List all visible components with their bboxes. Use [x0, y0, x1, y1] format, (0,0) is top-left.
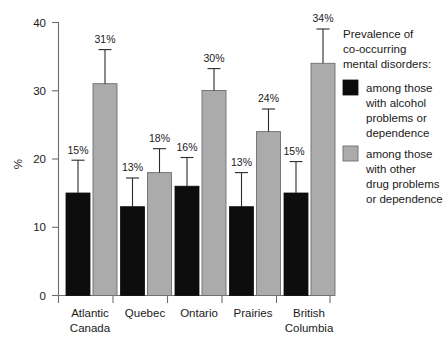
error-bar-light-prairies [262, 109, 275, 132]
value-label-light-british-columbia: 34% [312, 12, 333, 24]
bar-light-atlantic-canada [93, 84, 117, 296]
chart-legend: Prevalence of co-occurring mental disord… [343, 28, 443, 205]
cat-label-atlantic-canada-line1: Atlantic [71, 307, 109, 319]
legend-title-line2: co-occurring [343, 43, 406, 55]
legend-label-alcohol-line3: problems or [366, 112, 427, 124]
y-tick-label-0: 0 [40, 290, 46, 302]
bar-chart: 40 30 20 10 0 % 15% [0, 0, 444, 343]
cat-label-british-columbia-line2: Columbia [285, 322, 334, 334]
y-axis-ticks [52, 23, 59, 296]
legend-title-line3: mental disorders: [343, 58, 431, 70]
x-axis-group-ticks [59, 296, 331, 304]
cat-label-prairies: Prairies [234, 307, 273, 319]
legend-label-alcohol-line4: dependence [366, 127, 429, 139]
cat-label-british-columbia-line1: British [293, 307, 325, 319]
y-axis-title: % [12, 159, 24, 169]
value-label-light-atlantic-canada: 31% [94, 33, 115, 45]
legend-swatch-other-drug [343, 146, 358, 161]
legend-label-other-drug-line1: among those [366, 148, 433, 160]
value-label-dark-ontario: 16% [176, 141, 197, 153]
error-bar-dark-british-columbia [290, 162, 303, 193]
value-label-dark-prairies: 13% [231, 156, 252, 168]
legend-swatch-alcohol [343, 80, 358, 95]
bar-light-prairies [257, 132, 281, 296]
legend-label-alcohol-line1: among those [366, 82, 433, 94]
bar-dark-british-columbia [284, 193, 308, 296]
bar-group-prairies: 13% 24% [230, 92, 281, 295]
bar-light-quebec [148, 173, 172, 296]
error-bar-dark-atlantic-canada [72, 160, 85, 193]
bar-group-quebec: 13% 18% [121, 132, 172, 296]
error-bar-dark-quebec [126, 178, 139, 207]
value-label-light-ontario: 30% [203, 52, 224, 64]
x-axis-category-labels: Atlantic Canada Quebec Ontario Prairies … [70, 307, 334, 334]
value-label-dark-quebec: 13% [122, 161, 143, 173]
bar-group-ontario: 16% 30% [175, 52, 226, 296]
y-tick-label-30: 30 [33, 85, 46, 97]
bar-light-ontario [202, 91, 226, 296]
bar-group-atlantic-canada: 15% 31% [66, 33, 117, 296]
value-label-light-prairies: 24% [258, 92, 279, 104]
error-bar-light-atlantic-canada [99, 50, 112, 84]
y-tick-label-40: 40 [33, 17, 46, 29]
bar-dark-prairies [230, 207, 254, 296]
legend-label-other-drug-line3: drug problems [366, 178, 440, 190]
error-bar-light-ontario [208, 69, 221, 91]
error-bar-light-quebec [153, 149, 166, 173]
legend-label-other-drug-line2: with other [365, 163, 416, 175]
legend-title-line1: Prevalence of [343, 28, 414, 40]
value-label-dark-atlantic-canada: 15% [67, 144, 88, 156]
cat-label-ontario: Ontario [180, 307, 218, 319]
legend-label-alcohol-line2: with alcohol [365, 97, 426, 109]
cat-label-quebec: Quebec [125, 307, 166, 319]
error-bar-dark-ontario [181, 158, 194, 187]
error-bar-light-british-columbia [317, 29, 330, 63]
value-label-light-quebec: 18% [149, 132, 170, 144]
chart-svg: 40 30 20 10 0 % 15% [0, 0, 444, 343]
bar-dark-ontario [175, 186, 199, 295]
cat-label-atlantic-canada-line2: Canada [70, 322, 111, 334]
legend-label-other-drug-line4: or dependence [366, 193, 443, 205]
bar-dark-quebec [121, 207, 145, 296]
y-tick-label-20: 20 [33, 153, 46, 165]
bar-group-british-columbia: 15% 34% [283, 12, 335, 295]
bar-dark-atlantic-canada [66, 193, 90, 296]
error-bar-dark-prairies [235, 173, 248, 207]
y-tick-label-10: 10 [33, 221, 46, 233]
bar-light-british-columbia [311, 63, 335, 295]
value-label-dark-british-columbia: 15% [283, 145, 304, 157]
